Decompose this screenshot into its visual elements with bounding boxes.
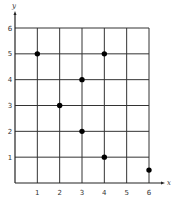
x-tick-label: 1 [35, 189, 39, 197]
data-point [79, 77, 84, 82]
x-tick-labels: 123456 [35, 189, 152, 197]
data-point [79, 129, 84, 134]
y-tick-label: 5 [8, 50, 12, 58]
y-axis-arrow-icon [14, 11, 17, 15]
y-tick-labels: 123456 [8, 25, 13, 162]
y-tick-label: 6 [8, 25, 13, 33]
data-point [35, 51, 40, 56]
x-axis-arrow-icon [161, 182, 165, 185]
y-tick-label: 1 [8, 154, 12, 162]
x-tick-label: 4 [102, 189, 107, 197]
x-axis-label: x [167, 179, 171, 187]
x-tick-label: 2 [57, 189, 61, 197]
axes: y x [11, 2, 171, 187]
y-tick-label: 4 [8, 76, 13, 84]
data-point [102, 51, 107, 56]
y-tick-label: 2 [8, 128, 12, 136]
grid-lines [15, 28, 149, 183]
x-tick-label: 6 [147, 189, 152, 197]
x-tick-label: 5 [124, 189, 128, 197]
y-axis-label: y [11, 2, 17, 10]
x-tick-label: 3 [80, 189, 84, 197]
data-point [146, 167, 151, 172]
data-point [57, 103, 62, 108]
data-point [102, 154, 107, 159]
y-tick-label: 3 [8, 102, 12, 110]
data-points [35, 51, 152, 173]
scatter-chart: y x 123456 123456 [0, 0, 173, 198]
